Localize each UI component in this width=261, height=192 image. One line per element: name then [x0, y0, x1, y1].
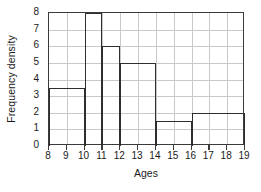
- histogram-bar: [49, 88, 85, 146]
- x-axis-tick-label: 12: [114, 150, 125, 162]
- y-axis-tick-label: 1: [33, 123, 39, 133]
- x-axis-tick-label: 13: [132, 150, 143, 162]
- x-axis-title: Ages: [48, 167, 244, 179]
- y-axis-tick-label: 6: [33, 40, 39, 50]
- histogram-bar: [156, 121, 192, 146]
- x-axis-tick-label: 18: [221, 150, 232, 162]
- y-axis-tick-label: 4: [33, 74, 39, 84]
- histogram-bar: [192, 113, 245, 146]
- y-axis-title: Frequency density: [0, 0, 22, 158]
- x-axis-tick-label: 9: [63, 150, 69, 162]
- y-axis-tick-label: 5: [33, 57, 39, 67]
- x-axis-tick-label: 17: [203, 150, 214, 162]
- histogram-bar: [102, 46, 120, 146]
- x-axis-tick-label: 11: [96, 150, 106, 162]
- x-axis-tick-label: 8: [45, 150, 51, 162]
- y-axis-tick-labels: 012345678: [22, 12, 42, 145]
- y-axis-tick-label: 0: [33, 140, 39, 150]
- y-axis-tick-label: 3: [33, 90, 39, 100]
- plot-area: [48, 12, 244, 145]
- x-axis-tick-labels: 8910111213141516171819: [48, 150, 244, 164]
- y-axis-tick-label: 8: [33, 7, 39, 17]
- x-axis-tick-label: 10: [78, 150, 89, 162]
- histogram-bar: [120, 63, 156, 146]
- x-axis-tick-label: 16: [185, 150, 196, 162]
- x-axis-tick-label: 19: [238, 150, 249, 162]
- y-axis-title-text: Frequency density: [5, 35, 17, 123]
- histogram-bars: [49, 13, 243, 144]
- histogram-bar: [85, 13, 103, 146]
- y-axis-tick-label: 2: [33, 107, 39, 117]
- histogram-chart: Frequency density 012345678 891011121314…: [0, 0, 261, 192]
- x-axis-tick-label: 14: [149, 150, 160, 162]
- y-axis-tick-label: 7: [33, 24, 39, 34]
- x-axis-tick-label: 15: [167, 150, 178, 162]
